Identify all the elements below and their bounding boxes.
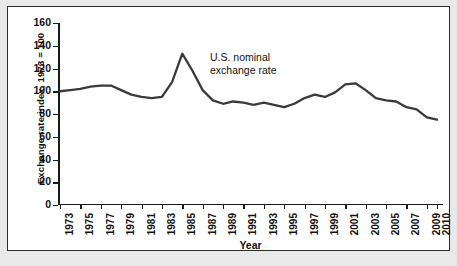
x-tick-label-1977: 1977 xyxy=(105,213,116,235)
x-tick-label-2001: 2001 xyxy=(349,213,360,235)
y-tick-label: 40 xyxy=(39,153,51,165)
series-annotation: U.S. nominal exchange rate xyxy=(210,51,277,76)
y-tick-label: 140 xyxy=(33,39,51,51)
y-tick-label: 60 xyxy=(39,130,51,142)
y-tick-label: 100 xyxy=(33,84,51,96)
x-tick-label-1999: 1999 xyxy=(329,213,340,235)
chart-frame: Exchange rate index, 1973 = 100 02040608… xyxy=(7,6,450,251)
annotation-line-2: exchange rate xyxy=(210,64,277,77)
annotation-line-1: U.S. nominal xyxy=(210,51,277,64)
x-tick-label-1975: 1975 xyxy=(84,213,95,235)
x-axis-title: Year xyxy=(58,239,443,251)
x-tick-label-1981: 1981 xyxy=(146,213,157,235)
x-tick-label-1987: 1987 xyxy=(207,213,218,235)
x-tick-label-1985: 1985 xyxy=(186,213,197,235)
x-tick-label-2005: 2005 xyxy=(390,213,401,235)
x-tick-label-1993: 1993 xyxy=(268,213,279,235)
x-tick-label-1973: 1973 xyxy=(64,213,75,235)
y-tick-label: 20 xyxy=(39,175,51,187)
x-tick-label-1983: 1983 xyxy=(166,213,177,235)
x-tick-label-1979: 1979 xyxy=(125,213,136,235)
figure-bottom-margin xyxy=(0,252,457,266)
y-tick-label: 0 xyxy=(45,198,51,210)
x-tick-label-1989: 1989 xyxy=(227,213,238,235)
x-tick-label-1995: 1995 xyxy=(288,213,299,235)
x-tick-label-2007: 2007 xyxy=(410,213,421,235)
x-tick-label-1991: 1991 xyxy=(247,213,258,235)
x-tick-label-1997: 1997 xyxy=(309,213,320,235)
x-tick-label-2010: 2010 xyxy=(441,213,452,235)
y-tick-label: 120 xyxy=(33,62,51,74)
y-tick-label: 80 xyxy=(39,107,51,119)
x-tick-label-2003: 2003 xyxy=(370,213,381,235)
y-tick-mark xyxy=(53,205,58,206)
figure-container: Exchange rate index, 1973 = 100 02040608… xyxy=(0,0,457,266)
y-tick-label: 160 xyxy=(33,16,51,28)
